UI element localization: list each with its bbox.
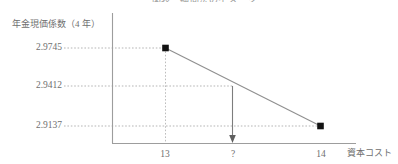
y-tick-label-1: 2.9412 bbox=[8, 81, 62, 91]
y-axis-title: 年金現価係数（4 年） bbox=[12, 20, 100, 29]
y-tick-label-0: 2.9745 bbox=[8, 43, 62, 53]
x-tick-label-0: 13 bbox=[145, 150, 185, 160]
data-point-marker-14 bbox=[317, 123, 324, 130]
data-point-marker-13 bbox=[162, 45, 169, 52]
data-series-line bbox=[166, 48, 321, 126]
interpolation-chart: 図表 補間法のイメージ 年 bbox=[0, 0, 398, 164]
y-tick-label-2: 2.9137 bbox=[8, 121, 62, 131]
x-tick-label-1: ? bbox=[213, 150, 253, 160]
series-segment bbox=[166, 48, 321, 126]
gridlines-horizontal bbox=[64, 48, 321, 126]
interpolation-arrowhead-icon bbox=[229, 135, 236, 143]
interpolation-indicator bbox=[229, 86, 236, 143]
x-axis-title: 資本コスト bbox=[347, 149, 392, 158]
x-tick-label-2: 14 bbox=[301, 150, 341, 160]
